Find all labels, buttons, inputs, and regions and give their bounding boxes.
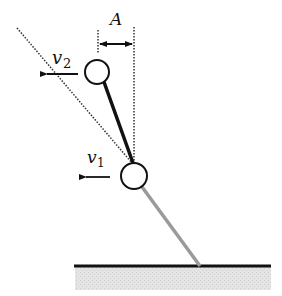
ground-hatch xyxy=(75,267,271,290)
amplitude-label: A xyxy=(108,9,122,29)
dotted-diagonal-reference xyxy=(17,28,132,163)
pendulum-diagram: A v 2 v 1 xyxy=(0,0,282,296)
v2-subscript: 2 xyxy=(63,56,71,71)
v1-subscript: 1 xyxy=(97,156,105,170)
lower-mass-circle xyxy=(121,163,147,189)
upper-mass-circle xyxy=(85,60,109,84)
v2-label: v xyxy=(52,47,62,68)
upper-rod-black xyxy=(104,82,133,163)
v1-label: v xyxy=(87,147,97,167)
lower-rod-gray xyxy=(134,176,200,266)
